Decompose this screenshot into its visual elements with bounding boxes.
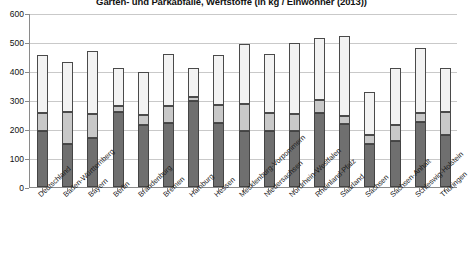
bar-segment-1	[87, 114, 98, 138]
chart-title: Garten- und Parkabfälle, Wertstoffe (in …	[0, 0, 463, 7]
bar-segment-1	[239, 104, 250, 132]
y-tick-label-400: 400	[10, 68, 24, 77]
bar-segment-2	[188, 68, 199, 97]
bar-segment-1	[440, 112, 451, 135]
bar-segment-2	[213, 55, 224, 105]
bar-segment-2	[415, 48, 426, 112]
bar-segment-0	[113, 112, 124, 187]
bar-segment-1	[188, 97, 199, 101]
bar-segment-2	[163, 54, 174, 106]
bar-segment-1	[339, 116, 350, 124]
bar-segment-2	[87, 51, 98, 114]
bar-segment-2	[289, 43, 300, 114]
x-axis-labels: DeutschlandBaden-WürttembergBayernBerlin…	[0, 190, 463, 277]
bar-segment-2	[239, 44, 250, 103]
y-tick-label-200: 200	[10, 126, 24, 135]
bar-segment-2	[138, 72, 149, 115]
bar-segment-1	[62, 112, 73, 144]
bar-segment-1	[113, 106, 124, 112]
bar-segment-2	[440, 68, 451, 112]
bar-segment-1	[364, 135, 375, 145]
bar-segment-2	[314, 38, 325, 100]
bar-segment-2	[390, 68, 401, 125]
bar-segment-1	[138, 115, 149, 125]
bar-segment-0	[138, 125, 149, 187]
bar-segment-0	[239, 131, 250, 187]
bar-segment-1	[163, 106, 174, 123]
bar-segment-2	[62, 62, 73, 112]
bar-segment-1	[264, 113, 275, 131]
bar-segment-1	[213, 105, 224, 123]
bar-segment-1	[314, 100, 325, 113]
y-axis: 600 500 400 300 200 100 0	[0, 0, 29, 192]
y-tick-label-300: 300	[10, 97, 24, 106]
y-tick-mark	[25, 188, 29, 189]
y-tick-label-600: 600	[10, 10, 24, 19]
y-tick-label-100: 100	[10, 155, 24, 164]
bar-segment-2	[364, 92, 375, 135]
bar-segment-2	[339, 36, 350, 116]
bar-segment-1	[390, 125, 401, 141]
bar-segment-0	[37, 131, 48, 187]
bar-segment-1	[37, 113, 48, 131]
bar-segment-0	[364, 144, 375, 187]
bar-segment-2	[113, 68, 124, 106]
bar-segment-2	[264, 54, 275, 113]
bar-segment-0	[188, 101, 199, 187]
bar-segment-1	[289, 114, 300, 131]
y-tick-label-500: 500	[10, 39, 24, 48]
bar-segment-0	[390, 141, 401, 187]
bar-segment-1	[415, 113, 426, 123]
bar-segment-2	[37, 55, 48, 113]
